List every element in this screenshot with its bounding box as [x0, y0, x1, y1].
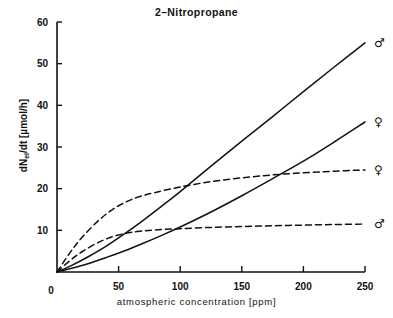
y-tick-label-0: 0 [48, 285, 54, 296]
x-tick-label-250: 250 [357, 281, 374, 292]
x-axis-tick-labels: 50100150200250 [113, 281, 374, 292]
y-axis-tick-labels: 0102030405060 [37, 17, 54, 296]
x-axis-ticks [119, 266, 365, 272]
series-symbol-male-dashed: ♂ [374, 217, 385, 231]
series-symbol-male-solid: ♂ [374, 36, 385, 50]
y-tick-label-40: 40 [37, 100, 49, 111]
plot-area: 0102030405060 50100150200250 ♂♀♀♂ [0, 0, 393, 318]
y-tick-label-30: 30 [37, 142, 49, 153]
curve-female-dashed [57, 170, 365, 272]
x-tick-label-50: 50 [113, 281, 125, 292]
x-tick-label-150: 150 [233, 281, 250, 292]
curve-female-solid [57, 122, 365, 272]
curve-male-solid [57, 43, 365, 272]
x-tick-label-100: 100 [172, 281, 189, 292]
data-curves [57, 43, 365, 272]
series-symbol-female-dashed: ♀ [374, 163, 383, 177]
y-tick-label-60: 60 [37, 17, 49, 28]
series-endpoint-symbols: ♂♀♀♂ [374, 36, 385, 231]
axes [57, 22, 365, 272]
y-tick-label-20: 20 [37, 183, 49, 194]
chart-figure: 2–Nitropropane dNel/dt [µmol/h] atmosphe… [0, 0, 393, 318]
series-symbol-female-solid: ♀ [374, 115, 383, 129]
y-tick-label-50: 50 [37, 58, 49, 69]
y-tick-label-10: 10 [37, 225, 49, 236]
x-tick-label-200: 200 [295, 281, 312, 292]
